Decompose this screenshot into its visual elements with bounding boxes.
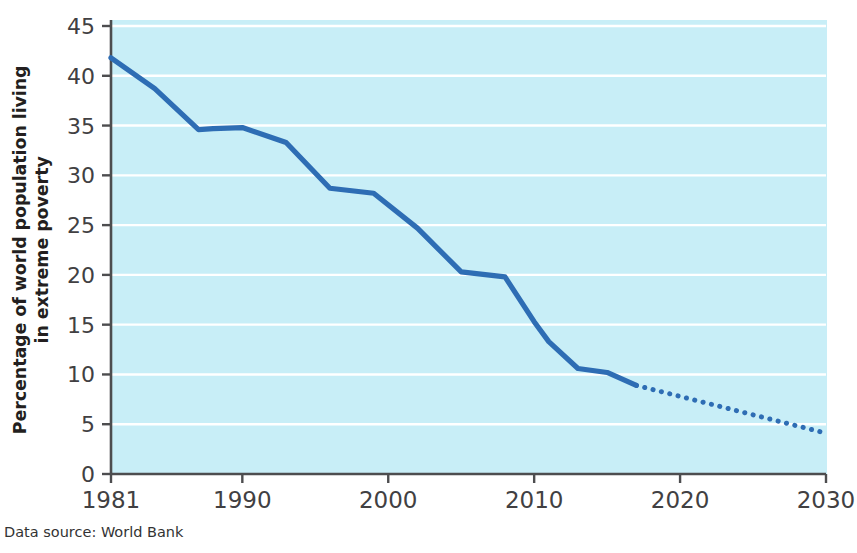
y-tick-label-15: 15	[67, 313, 95, 338]
plot-area: 051015202530354045 198119902000201020202…	[0, 0, 857, 553]
y-tick-label-40: 40	[67, 64, 95, 89]
y-tick-label-10: 10	[67, 362, 95, 387]
x-tick-label-2030: 2030	[797, 487, 856, 513]
chart-svg: 051015202530354045 198119902000201020202…	[0, 0, 857, 553]
y-tick-label-5: 5	[81, 412, 95, 437]
y-tick-label-35: 35	[67, 114, 95, 139]
x-tick-label-2020: 2020	[651, 487, 710, 513]
y-tick-label-20: 20	[67, 263, 95, 288]
y-tick-label-25: 25	[67, 213, 95, 238]
x-tick-label-1990: 1990	[213, 487, 272, 513]
x-tick-group: 198119902000201020202030	[82, 474, 856, 513]
data-source-caption: Data source: World Bank	[4, 524, 183, 540]
x-tick-label-2010: 2010	[505, 487, 564, 513]
poverty-line-chart-figure: Percentage of world population living in…	[0, 0, 857, 553]
y-tick-label-0: 0	[81, 462, 95, 487]
y-tick-label-45: 45	[67, 14, 95, 39]
x-tick-label-2000: 2000	[359, 487, 418, 513]
y-tick-group: 051015202530354045	[67, 14, 111, 487]
x-tick-label-1981: 1981	[82, 487, 141, 513]
y-tick-label-30: 30	[67, 163, 95, 188]
